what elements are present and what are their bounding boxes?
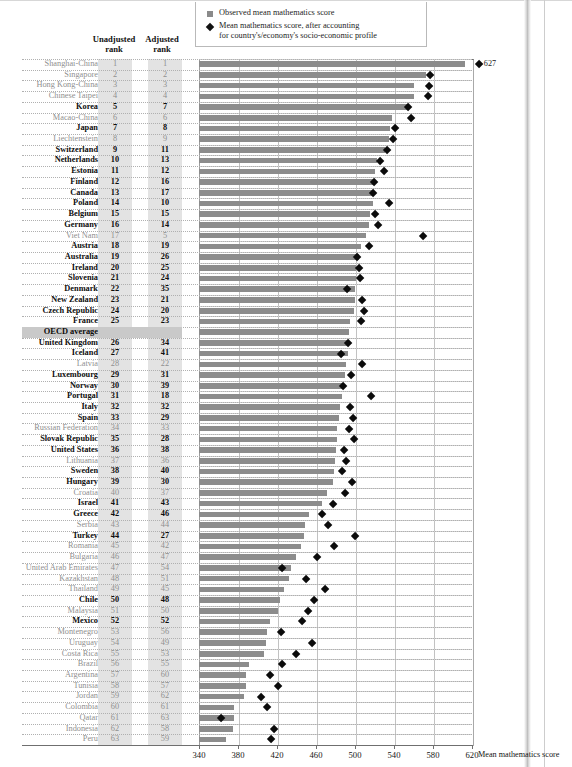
adjusted-score-marker xyxy=(345,424,354,433)
adjusted-score-marker xyxy=(270,724,279,733)
adjusted-score-marker xyxy=(371,210,380,219)
unadjusted-rank-cell: 20 xyxy=(98,263,132,274)
adjusted-rank-cell: 34 xyxy=(148,338,182,349)
chart-row: Indonesia6258 xyxy=(0,724,572,735)
observed-score-bar xyxy=(199,297,355,303)
chart-rows: Shanghai-China11627Singapore22Hong Kong-… xyxy=(0,59,572,745)
tick-label-500: 500 xyxy=(335,750,375,760)
adjusted-rank-cell: 40 xyxy=(148,466,182,477)
adjusted-score-marker xyxy=(263,703,272,712)
chart-row: Poland1410 xyxy=(0,198,572,209)
observed-score-bar xyxy=(199,222,369,228)
chart-row: United Kingdom2634 xyxy=(0,338,572,349)
chart-row: Spain3329 xyxy=(0,413,572,424)
country-label: Costa Rica xyxy=(0,649,98,660)
adjusted-score-marker xyxy=(342,456,351,465)
adjusted-score-marker xyxy=(266,671,275,680)
adjusted-rank-cell: 48 xyxy=(148,595,182,606)
adjusted-score-marker xyxy=(419,231,428,240)
observed-score-bar xyxy=(199,276,356,282)
country-label: United Arab Emirates xyxy=(0,563,98,574)
adjusted-rank-cell: 52 xyxy=(148,616,182,627)
tick-500 xyxy=(355,745,356,749)
chart-row: Mexico5252 xyxy=(0,616,572,627)
chart-row: Latvia2822 xyxy=(0,359,572,370)
country-label: Mexico xyxy=(0,616,98,627)
observed-score-bar xyxy=(199,447,336,453)
unadjusted-rank-cell: 37 xyxy=(98,456,132,467)
observed-score-bar xyxy=(199,415,339,421)
observed-score-bar xyxy=(199,737,226,743)
unadjusted-rank-cell: 2 xyxy=(98,70,132,81)
country-label: United Kingdom xyxy=(0,338,98,349)
adjusted-rank-cell: 45 xyxy=(148,584,182,595)
adjusted-score-marker xyxy=(350,435,359,444)
observed-score-bar xyxy=(199,640,266,646)
chart-row: Denmark2235 xyxy=(0,284,572,295)
chart-row: Chile5048 xyxy=(0,595,572,606)
chart-row: Italy3232 xyxy=(0,402,572,413)
observed-score-bar xyxy=(199,136,389,142)
unadjusted-rank-cell: 13 xyxy=(98,188,132,199)
observed-score-bar xyxy=(199,608,278,614)
observed-score-bar xyxy=(199,705,234,711)
country-label: Greece xyxy=(0,509,98,520)
chart-row: Slovak Republic3528 xyxy=(0,434,572,445)
adjusted-rank-cell: 2 xyxy=(148,70,182,81)
tick-380 xyxy=(238,745,239,749)
observed-score-bar xyxy=(199,437,337,443)
adjusted-rank-cell: 1 xyxy=(148,59,182,70)
chart-row: Romania4542 xyxy=(0,541,572,552)
unadjusted-rank-cell: 36 xyxy=(98,445,132,456)
chart-row: Estonia1112 xyxy=(0,166,572,177)
adjusted-score-marker xyxy=(357,360,366,369)
country-label: Turkey xyxy=(0,531,98,542)
observed-score-bar xyxy=(199,104,408,110)
unadjusted-rank-cell: 3 xyxy=(98,80,132,91)
adjusted-rank-cell: 14 xyxy=(148,220,182,231)
observed-score-bar xyxy=(199,201,373,207)
observed-score-bar xyxy=(199,501,322,507)
adjusted-rank-cell: 53 xyxy=(148,649,182,660)
chart-row: Australia1926 xyxy=(0,252,572,263)
unadjusted-rank-cell: 41 xyxy=(98,498,132,509)
adjusted-score-marker xyxy=(267,735,276,744)
adjusted-rank-cell: 47 xyxy=(148,552,182,563)
observed-score-bar xyxy=(199,340,349,346)
adjusted-score-marker xyxy=(355,274,364,283)
chart-row: Macao-China66 xyxy=(0,113,572,124)
observed-score-bar xyxy=(199,490,327,496)
observed-score-bar xyxy=(199,426,337,432)
x-axis-title: Mean mathematics score xyxy=(478,750,559,759)
adjusted-score-marker xyxy=(353,253,362,262)
unadjusted-rank-cell: 61 xyxy=(98,713,132,724)
country-label: Russian Federation xyxy=(0,423,98,434)
legend-label-adjusted-line2: for country's/economy's socio-economic p… xyxy=(219,31,377,40)
chart-row: Japan78 xyxy=(0,123,572,134)
chart-row: Shanghai-China11627 xyxy=(0,59,572,70)
country-label: Portugal xyxy=(0,391,98,402)
unadjusted-rank-cell: 17 xyxy=(98,231,132,242)
adjusted-score-marker xyxy=(426,71,435,80)
unadjusted-rank-cell: 42 xyxy=(98,509,132,520)
country-label: Latvia xyxy=(0,359,98,370)
chart-row: Liechtenstein89 xyxy=(0,134,572,145)
adjusted-rank-cell: 27 xyxy=(148,531,182,542)
observed-score-bar xyxy=(199,662,249,668)
country-label: Germany xyxy=(0,220,98,231)
adjusted-rank-cell: 9 xyxy=(148,134,182,145)
unadjusted-rank-cell: 59 xyxy=(98,691,132,702)
adjusted-score-marker xyxy=(407,113,416,122)
adjusted-rank-cell: 22 xyxy=(148,359,182,370)
chart-row: Peru6359 xyxy=(0,734,572,745)
adjusted-score-marker xyxy=(277,660,286,669)
chart-row: Bulgaria4647 xyxy=(0,552,572,563)
country-label: Slovak Republic xyxy=(0,434,98,445)
observed-score-bar xyxy=(199,694,244,700)
unadjusted-rank-cell: 1 xyxy=(98,59,132,70)
adjusted-rank-cell: 12 xyxy=(148,166,182,177)
chart-row: Costa Rica5553 xyxy=(0,649,572,660)
observed-score-bar xyxy=(199,147,385,153)
unadjusted-rank-cell: 9 xyxy=(98,145,132,156)
country-label: Indonesia xyxy=(0,724,98,735)
